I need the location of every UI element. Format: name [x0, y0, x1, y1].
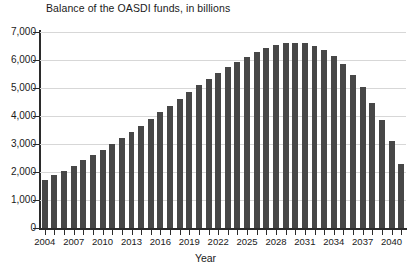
x-axis-tick-mark	[295, 230, 296, 235]
y-axis-tick-label: 1,000	[0, 194, 36, 205]
bar	[331, 56, 337, 228]
y-axis-tick-mark	[33, 116, 39, 117]
x-axis-tick-label: 2031	[294, 236, 315, 247]
y-axis-tick-label: 2,000	[0, 166, 36, 177]
x-axis-tick-mark	[112, 230, 113, 235]
x-axis-tick-mark	[209, 230, 210, 235]
y-axis-labels: 01,0002,0003,0004,0005,0006,0007,000	[0, 0, 36, 274]
bar	[109, 144, 115, 228]
x-axis-tick-mark	[392, 230, 393, 235]
bar	[71, 166, 77, 228]
gridline	[40, 32, 406, 33]
bar	[321, 50, 327, 228]
y-axis-tick-mark	[33, 228, 39, 229]
bar	[138, 126, 144, 228]
y-axis-tick-mark	[33, 200, 39, 201]
x-axis-tick-mark	[64, 230, 65, 235]
bar	[148, 119, 154, 228]
bar	[100, 150, 106, 228]
bar	[51, 175, 57, 228]
bar	[157, 112, 163, 228]
x-axis-tick-label: 2034	[323, 236, 344, 247]
x-axis-tick-mark	[237, 230, 238, 235]
x-axis-tick-mark	[103, 230, 104, 235]
y-axis-tick-label: 3,000	[0, 138, 36, 149]
x-axis-tick-mark	[382, 230, 383, 235]
y-axis-tick-label: 6,000	[0, 54, 36, 65]
chart-title: Balance of the OASDI funds, in billions	[46, 2, 230, 14]
x-axis-tick-mark	[45, 230, 46, 235]
bar	[167, 106, 173, 228]
y-axis-tick-mark	[33, 172, 39, 173]
x-axis-tick-mark	[401, 230, 402, 235]
plot-area	[40, 32, 406, 228]
bar	[273, 45, 279, 228]
bar	[129, 132, 135, 228]
bar	[206, 79, 212, 228]
bar	[244, 57, 250, 228]
bar	[292, 43, 298, 228]
x-axis-tick-label: 2028	[265, 236, 286, 247]
x-axis-tick-label: 2025	[237, 236, 258, 247]
y-axis-tick-mark	[33, 88, 39, 89]
x-axis-tick-mark	[199, 230, 200, 235]
x-axis-tick-mark	[132, 230, 133, 235]
bar	[312, 46, 318, 228]
bar	[80, 160, 86, 228]
bar	[215, 73, 221, 228]
bar	[283, 43, 289, 228]
x-axis-tick-mark	[315, 230, 316, 235]
x-axis-tick-mark	[122, 230, 123, 235]
chart-container: Balance of the OASDI funds, in billions …	[0, 0, 411, 274]
y-axis-tick-mark	[33, 32, 39, 33]
x-axis-tick-mark	[83, 230, 84, 235]
x-axis-tick-mark	[141, 230, 142, 235]
x-axis-tick-label: 2022	[208, 236, 229, 247]
x-axis-line	[39, 228, 407, 230]
bar	[225, 67, 231, 228]
x-axis-tick-mark	[372, 230, 373, 235]
x-axis-tick-mark	[305, 230, 306, 235]
y-axis-tick-mark	[33, 144, 39, 145]
bar	[61, 171, 67, 228]
x-axis-tick-mark	[180, 230, 181, 235]
x-axis-tick-label: 2016	[150, 236, 171, 247]
bar	[350, 75, 356, 228]
x-axis-tick-mark	[228, 230, 229, 235]
bar	[234, 62, 240, 228]
x-axis-tick-label: 2019	[179, 236, 200, 247]
x-axis-tick-mark	[276, 230, 277, 235]
x-axis-tick-mark	[170, 230, 171, 235]
x-axis-tick-label: 2040	[381, 236, 402, 247]
bar	[42, 180, 48, 228]
x-axis-tick-mark	[151, 230, 152, 235]
x-axis-tick-mark	[334, 230, 335, 235]
x-axis-tick-label: 2010	[92, 236, 113, 247]
x-axis-tick-mark	[160, 230, 161, 235]
gridline	[40, 60, 406, 61]
x-axis-tick-mark	[324, 230, 325, 235]
bar	[340, 64, 346, 228]
x-axis-tick-label: 2037	[352, 236, 373, 247]
bar	[254, 52, 260, 228]
y-axis-tick-label: 0	[0, 222, 36, 233]
y-axis-tick-label: 5,000	[0, 82, 36, 93]
x-axis-tick-label: 2013	[121, 236, 142, 247]
x-axis-tick-mark	[54, 230, 55, 235]
x-axis-tick-mark	[189, 230, 190, 235]
bar	[302, 43, 308, 228]
x-axis-tick-mark	[353, 230, 354, 235]
x-axis-tick-mark	[286, 230, 287, 235]
bar	[379, 120, 385, 228]
bar	[263, 48, 269, 228]
x-axis-tick-mark	[257, 230, 258, 235]
bar	[360, 87, 366, 228]
bar	[90, 155, 96, 228]
bar	[369, 103, 375, 228]
bar	[186, 92, 192, 228]
x-axis-title: Year	[0, 252, 411, 264]
bar	[177, 99, 183, 228]
bar	[398, 164, 404, 228]
bar	[389, 141, 395, 228]
bar	[196, 85, 202, 228]
